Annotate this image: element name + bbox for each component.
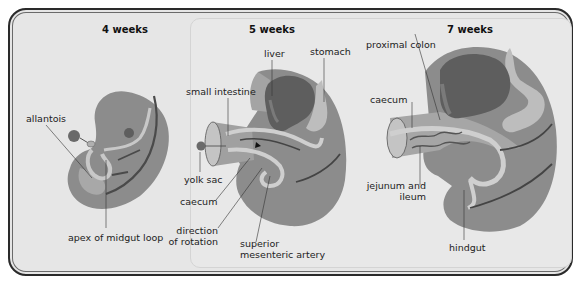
label-allantois: allantois <box>26 113 66 124</box>
label-small-intestine: small intestine <box>186 86 256 97</box>
embryo-4-weeks <box>46 91 169 228</box>
label-stomach: stomach <box>310 46 351 57</box>
label-proximal-colon: proximal colon <box>366 39 436 50</box>
stage-title-5-weeks: 5 weeks <box>249 24 295 35</box>
label-caecum-5w: caecum <box>180 196 217 207</box>
label-jejunum-line1: jejunum and <box>364 180 426 191</box>
label-direction-line1: direction <box>166 225 218 236</box>
stage-title-4-weeks: 4 weeks <box>102 24 148 35</box>
label-jejunum-and-ileum: jejunum and ileum <box>364 180 426 202</box>
label-direction-of-rotation: direction of rotation <box>166 225 218 247</box>
label-liver: liver <box>264 48 285 59</box>
label-apex-of-midgut-loop: apex of midgut loop <box>68 232 163 243</box>
label-sma-line2: mesenteric artery <box>240 249 325 260</box>
label-hindgut: hindgut <box>449 242 486 253</box>
label-yolk-sac: yolk sac <box>184 174 223 185</box>
label-sma-line1: superior <box>240 238 325 249</box>
label-superior-mesenteric-artery: superior mesenteric artery <box>240 238 325 260</box>
label-direction-line2: of rotation <box>166 236 218 247</box>
stage-title-7-weeks: 7 weeks <box>447 24 493 35</box>
embryo-7-weeks <box>387 34 557 240</box>
label-jejunum-line2: ileum <box>364 191 426 202</box>
label-caecum-7w: caecum <box>370 94 407 105</box>
